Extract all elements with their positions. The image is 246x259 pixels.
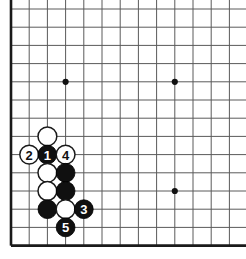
white-stone-icon bbox=[38, 163, 57, 182]
go-stone-white[interactable] bbox=[38, 182, 57, 201]
go-stone-black-3[interactable]: 3 bbox=[74, 200, 93, 219]
go-stone-black[interactable] bbox=[56, 163, 75, 182]
go-stone-white[interactable] bbox=[56, 200, 75, 219]
black-stone-icon bbox=[38, 200, 57, 219]
move-number-label: 2 bbox=[26, 148, 33, 163]
go-board-diagram: 21435 bbox=[0, 0, 246, 259]
go-stone-black-5[interactable]: 5 bbox=[56, 218, 75, 237]
black-stone-icon bbox=[56, 182, 75, 201]
go-stone-black[interactable] bbox=[38, 200, 57, 219]
move-number-label: 5 bbox=[62, 220, 69, 235]
white-stone-icon bbox=[38, 127, 57, 146]
go-stone-black-1[interactable]: 1 bbox=[38, 145, 57, 164]
star-point-icon bbox=[172, 79, 178, 85]
star-point-icon bbox=[172, 188, 178, 194]
black-stone-icon bbox=[56, 163, 75, 182]
move-number-label: 4 bbox=[62, 148, 70, 163]
move-number-label: 1 bbox=[44, 148, 51, 163]
star-point-icon bbox=[63, 79, 69, 85]
go-stone-white[interactable] bbox=[38, 163, 57, 182]
white-stone-icon bbox=[38, 182, 57, 201]
move-number-label: 3 bbox=[80, 202, 87, 217]
go-stone-white-4[interactable]: 4 bbox=[56, 145, 75, 164]
go-board-svg: 21435 bbox=[0, 0, 246, 259]
white-stone-icon bbox=[56, 200, 75, 219]
go-stone-white-2[interactable]: 2 bbox=[20, 145, 39, 164]
go-stone-black[interactable] bbox=[56, 182, 75, 201]
stones-layer: 21435 bbox=[20, 127, 93, 237]
go-stone-white[interactable] bbox=[38, 127, 57, 146]
